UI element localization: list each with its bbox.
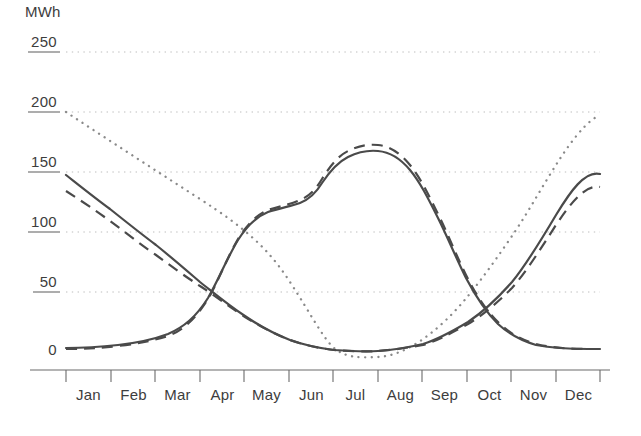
y-tick-label-150: 150 — [0, 153, 57, 170]
chart-canvas — [0, 0, 641, 436]
y-tick-label-0: 0 — [0, 341, 57, 358]
series-heating-solid — [66, 174, 600, 352]
x-tick-label-may: May — [244, 386, 289, 403]
x-tick-marks — [66, 370, 600, 382]
y-tick-label-200: 200 — [0, 93, 57, 110]
chart-container: MWh 250 200 150 100 50 0 Jan Feb Mar Apr… — [0, 0, 641, 436]
x-tick-label-feb: Feb — [111, 386, 156, 403]
x-tick-label-sep: Sep — [422, 386, 467, 403]
x-tick-label-jul: Jul — [333, 386, 378, 403]
x-tick-label-apr: Apr — [200, 386, 245, 403]
series-heating-dotted — [66, 112, 600, 357]
y-tick-label-100: 100 — [0, 213, 57, 230]
x-tick-label-nov: Nov — [511, 386, 556, 403]
series-heating-dashed — [66, 187, 600, 352]
y-tick-label-250: 250 — [0, 33, 57, 50]
x-tick-label-jan: Jan — [66, 386, 111, 403]
x-tick-label-mar: Mar — [155, 386, 200, 403]
x-tick-label-dec: Dec — [556, 386, 601, 403]
x-tick-label-aug: Aug — [378, 386, 423, 403]
x-tick-label-oct: Oct — [467, 386, 512, 403]
y-tick-rules — [28, 52, 60, 292]
x-tick-label-jun: Jun — [289, 386, 334, 403]
series-cooling-solid — [66, 151, 600, 349]
y-axis-unit-label: MWh — [25, 3, 61, 20]
gridlines — [66, 52, 600, 292]
y-tick-label-50: 50 — [0, 273, 57, 290]
